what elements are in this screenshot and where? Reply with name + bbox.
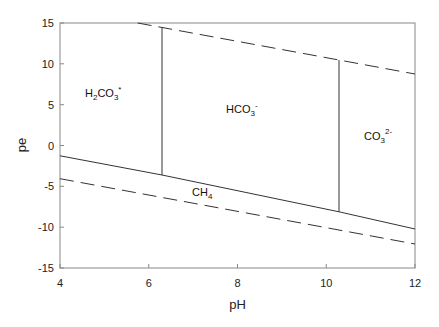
upper-water-boundary <box>138 23 415 74</box>
region-label-co3: CO32- <box>364 127 392 145</box>
x-tick-label: 8 <box>234 277 240 289</box>
y-tick-label: -10 <box>38 221 54 233</box>
y-tick-label: -5 <box>44 180 54 192</box>
x-tick-label: 10 <box>320 277 332 289</box>
y-tick-label: 15 <box>42 17 54 29</box>
x-tick-labels: 4 6 8 10 12 <box>57 277 421 289</box>
y-tick-label: 10 <box>42 58 54 70</box>
region-label-hco3: HCO3- <box>226 101 258 118</box>
x-tick-label: 12 <box>409 277 421 289</box>
x-axis <box>60 264 415 268</box>
y-tick-label: 5 <box>48 99 54 111</box>
x-axis-title: pH <box>229 297 246 312</box>
y-tick-label: -15 <box>38 262 54 274</box>
y-tick-labels: 15 10 5 0 -5 -10 -15 <box>38 17 54 274</box>
lower-water-boundary <box>60 179 415 244</box>
plot-area <box>60 23 415 268</box>
plot-frame <box>60 23 415 268</box>
y-axis <box>60 23 64 268</box>
region-label-ch4: CH4 <box>192 186 213 201</box>
pe-ph-diagram: 15 10 5 0 -5 -10 -15 4 6 8 10 12 pH pe H… <box>0 0 439 327</box>
x-tick-label: 4 <box>57 277 63 289</box>
region-label-h2co3: H2CO3* <box>85 85 121 102</box>
ch4-boundary <box>60 156 415 229</box>
y-axis-title: pe <box>14 138 29 152</box>
data-lines <box>60 23 415 244</box>
x-tick-label: 6 <box>146 277 152 289</box>
y-tick-label: 0 <box>48 140 54 152</box>
